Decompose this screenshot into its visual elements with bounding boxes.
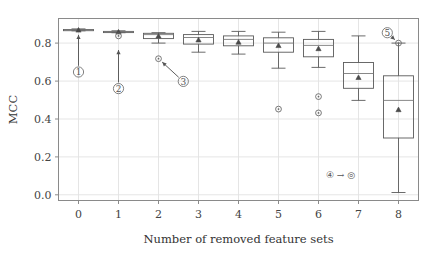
- x-tick-label: 2: [155, 208, 162, 221]
- annotation-number: 1: [76, 67, 82, 77]
- outlier-marker-dot: [278, 108, 280, 110]
- outlier-marker-dot: [158, 58, 160, 60]
- x-tick-label: 5: [275, 208, 282, 221]
- outlier-marker-dot: [318, 112, 320, 114]
- chart-canvas: 0.00.20.40.60.8012345678MCCNumber of rem…: [0, 0, 438, 254]
- x-tick-label: 4: [235, 208, 242, 221]
- annotation-number: 5: [384, 28, 390, 38]
- x-tick-label: 1: [115, 208, 122, 221]
- outlier-marker-dot: [118, 35, 120, 37]
- y-axis-label: MCC: [6, 95, 20, 125]
- y-tick-label: 0.2: [34, 151, 52, 164]
- annotation-legend-outlier: ④ → ◎: [326, 170, 355, 180]
- y-tick-label: 0.0: [34, 189, 52, 202]
- x-tick-label: 3: [195, 208, 202, 221]
- y-tick-label: 0.8: [34, 37, 52, 50]
- x-tick-label: 6: [315, 208, 322, 221]
- y-tick-label: 0.4: [34, 113, 52, 126]
- annotation-number: 2: [116, 84, 122, 94]
- x-tick-label: 8: [395, 208, 402, 221]
- x-axis-label: Number of removed feature sets: [143, 232, 333, 246]
- outlier-marker-dot: [318, 96, 320, 98]
- x-tick-label: 7: [355, 208, 362, 221]
- y-tick-label: 0.6: [34, 75, 52, 88]
- x-tick-label: 0: [75, 208, 82, 221]
- boxplot-figure: 0.00.20.40.60.8012345678MCCNumber of rem…: [0, 0, 438, 254]
- annotation-number: 3: [180, 77, 186, 87]
- outlier-marker-dot: [398, 42, 400, 44]
